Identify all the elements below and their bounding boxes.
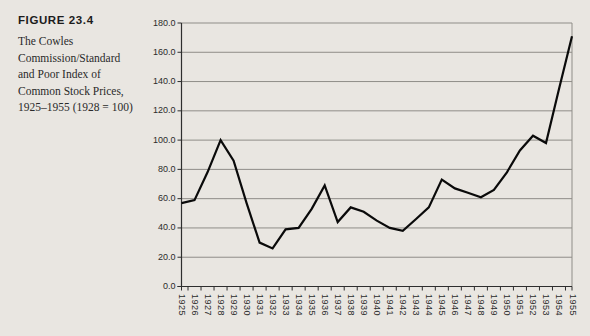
x-tick-label: 1937 bbox=[332, 294, 343, 316]
x-tick-label: 1934 bbox=[293, 294, 304, 316]
x-tick-label: 1955 bbox=[567, 294, 578, 316]
x-tick-label: 1948 bbox=[475, 294, 486, 316]
x-tick-label: 1940 bbox=[371, 294, 382, 316]
x-tick-label: 1936 bbox=[319, 294, 330, 316]
x-tick-label: 1939 bbox=[358, 294, 369, 316]
x-tick-label: 1949 bbox=[488, 294, 499, 316]
x-tick-label: 1941 bbox=[384, 294, 395, 316]
y-tick-label: 100.0 bbox=[132, 135, 176, 146]
x-tick-label: 1935 bbox=[306, 294, 317, 316]
y-tick-label: 20.0 bbox=[132, 252, 176, 263]
x-tick-label: 1928 bbox=[215, 294, 226, 316]
y-tick-label: 60.0 bbox=[132, 193, 176, 204]
y-tick-label: 80.0 bbox=[132, 164, 176, 175]
x-tick-label: 1927 bbox=[202, 294, 213, 316]
x-tick-label: 1943 bbox=[410, 294, 421, 316]
x-tick-label: 1942 bbox=[397, 294, 408, 316]
y-tick-label: 40.0 bbox=[132, 222, 176, 233]
stock-index-chart: 0.020.040.060.080.0100.0120.0140.0160.01… bbox=[0, 0, 590, 336]
x-tick-label: 1947 bbox=[462, 294, 473, 316]
x-tick-label: 1944 bbox=[423, 294, 434, 316]
chart-canvas bbox=[0, 0, 590, 336]
x-tick-label: 1933 bbox=[280, 294, 291, 316]
figure-page: FIGURE 23.4 The CowlesCommission/Standar… bbox=[0, 0, 590, 336]
x-tick-label: 1952 bbox=[527, 294, 538, 316]
figure-page-body: { "figure": { "label": "FIGURE 23.4", "c… bbox=[0, 0, 590, 336]
y-tick-label: 140.0 bbox=[132, 76, 176, 87]
x-tick-label: 1930 bbox=[241, 294, 252, 316]
x-tick-label: 1951 bbox=[514, 294, 525, 316]
x-tick-label: 1954 bbox=[553, 294, 564, 316]
x-tick-label: 1926 bbox=[189, 294, 200, 316]
x-tick-label: 1929 bbox=[228, 294, 239, 316]
x-tick-label: 1946 bbox=[449, 294, 460, 316]
y-tick-label: 0.0 bbox=[132, 281, 176, 292]
x-tick-label: 1931 bbox=[254, 294, 265, 316]
x-tick-label: 1945 bbox=[436, 294, 447, 316]
stock-index-line bbox=[182, 36, 573, 248]
x-tick-label: 1953 bbox=[540, 294, 551, 316]
x-tick-label: 1938 bbox=[345, 294, 356, 316]
y-tick-label: 180.0 bbox=[132, 18, 176, 29]
y-tick-label: 120.0 bbox=[132, 105, 176, 116]
x-tick-label: 1932 bbox=[267, 294, 278, 316]
x-tick-label: 1925 bbox=[176, 294, 187, 316]
x-tick-label: 1950 bbox=[501, 294, 512, 316]
y-tick-label: 160.0 bbox=[132, 47, 176, 58]
